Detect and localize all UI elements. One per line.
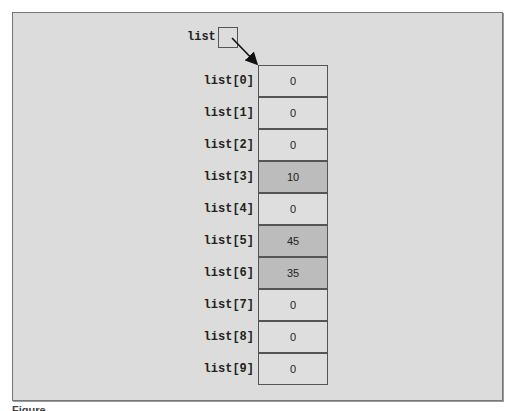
array-index-label: list[8] [204,321,254,353]
array-index-label: list[6] [204,257,254,289]
array-index-label: list[3] [204,161,254,193]
array-cell: 0 [258,193,328,225]
array-row: list[4]0 [0,193,515,225]
array-cell: 10 [258,161,328,193]
array-cell: 0 [258,65,328,97]
array-cell: 0 [258,129,328,161]
array-row: list[0]0 [0,65,515,97]
array-cell: 0 [258,289,328,321]
array-index-label: list[4] [204,193,254,225]
array-cell: 0 [258,321,328,353]
array-cell: 0 [258,97,328,129]
array-cell: 35 [258,257,328,289]
array-row: list[3]10 [0,161,515,193]
pointer-label: list [187,30,216,44]
array-index-label: list[0] [204,65,254,97]
array-index-label: list[1] [204,97,254,129]
array-index-label: list[9] [204,353,254,385]
array-row: list[6]35 [0,257,515,289]
figure-caption: Figure [12,404,46,411]
array-row: list[1]0 [0,97,515,129]
array-cell: 0 [258,353,328,385]
array-row: list[7]0 [0,289,515,321]
array-index-label: list[7] [204,289,254,321]
array-index-label: list[5] [204,225,254,257]
array-row: list[9]0 [0,353,515,385]
pointer-box [218,27,238,48]
array-cell: 45 [258,225,328,257]
array-row: list[8]0 [0,321,515,353]
array-index-label: list[2] [204,129,254,161]
array-row: list[5]45 [0,225,515,257]
array-row: list[2]0 [0,129,515,161]
